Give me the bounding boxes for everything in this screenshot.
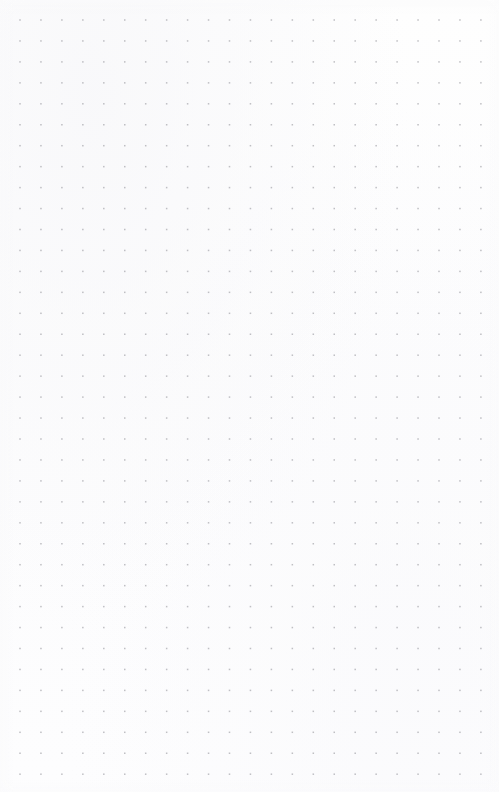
page-content-area[interactable] [0,0,499,792]
dot-grid-page [0,0,499,792]
